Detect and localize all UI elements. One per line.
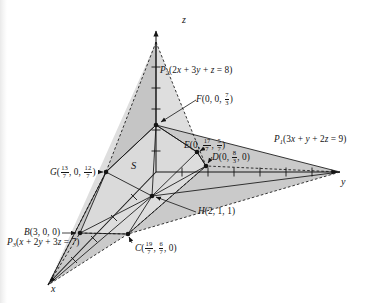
point-label-F: F(0, 0, 73) bbox=[196, 92, 233, 106]
plane-faces bbox=[48, 42, 340, 285]
axis-label-x: x bbox=[51, 283, 55, 294]
vertex-dot-C bbox=[126, 232, 131, 237]
vertex-dot-G bbox=[104, 170, 109, 175]
axis-label-y: y bbox=[341, 176, 345, 187]
leader-C bbox=[129, 237, 132, 243]
vertex-dot-H bbox=[150, 194, 155, 199]
point-label-H: H(2, 1, 1) bbox=[198, 207, 235, 216]
plane-label-p3: P3(x + 2y + 3z = 7) bbox=[7, 238, 80, 248]
solution-region-label: S bbox=[131, 160, 136, 171]
plane-label-p2: P2(2x + 3y + z = 8) bbox=[160, 66, 233, 76]
vertex-dot-F bbox=[154, 123, 159, 128]
plane-label-p1: P1(3x + y + 2z = 9) bbox=[274, 135, 347, 145]
point-label-D: D(0, 83, 0) bbox=[212, 150, 250, 164]
axis-label-z: z bbox=[182, 14, 186, 25]
vertex-dot-B bbox=[78, 231, 83, 236]
vertex-dot-D bbox=[204, 164, 209, 169]
point-label-C: C(197, 67, 0) bbox=[135, 241, 177, 255]
figure-root: z y x S P2(2x + 3y + z = 8) P1(3x + y + … bbox=[0, 0, 370, 303]
point-label-B: B(3, 0, 0) bbox=[24, 228, 60, 237]
point-label-G: G(137, 0, 127) bbox=[50, 165, 96, 179]
